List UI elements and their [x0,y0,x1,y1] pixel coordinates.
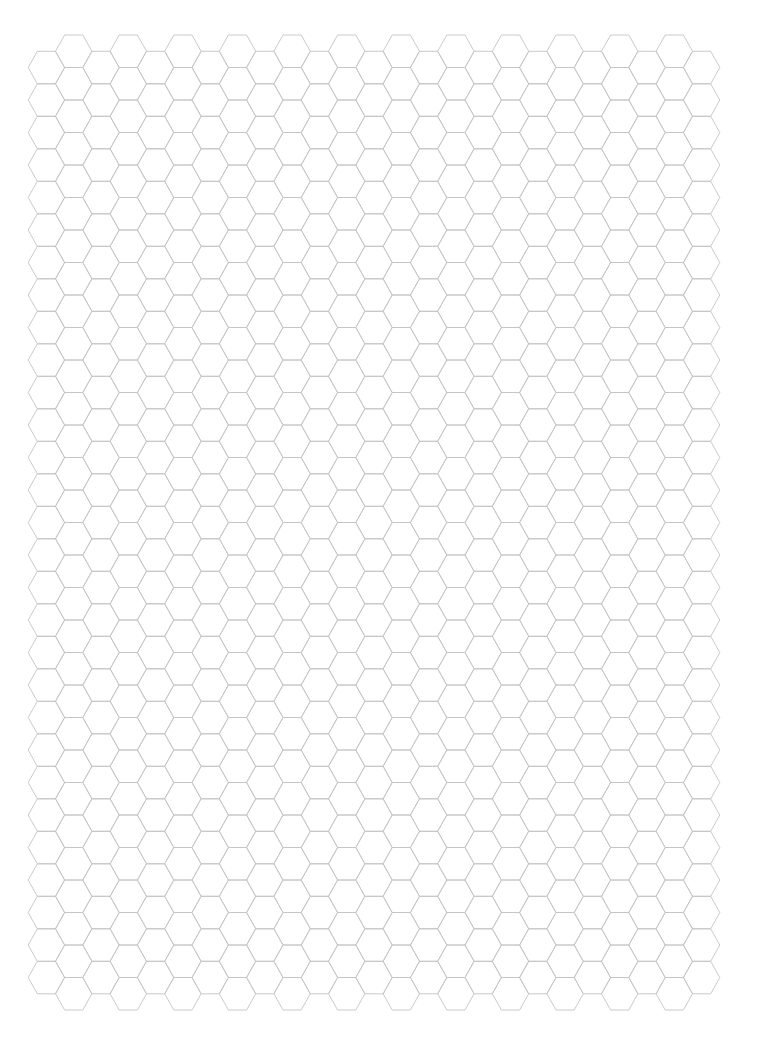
hexagon-cells [28,35,720,1010]
hexagon-grid [0,0,768,1053]
hex-grid-paper-page [0,0,768,1053]
